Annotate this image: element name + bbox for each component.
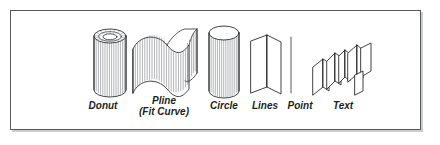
label-donut-text: Donut bbox=[89, 100, 118, 111]
label-circle-text: Circle bbox=[210, 100, 238, 111]
figure-canvas: .ol { fill: none; stroke: #2b2d2f; strok… bbox=[11, 11, 422, 131]
shape-circle bbox=[209, 26, 239, 98]
label-lines: Lines bbox=[246, 100, 284, 111]
shape-pline bbox=[133, 29, 197, 97]
label-point-text: Point bbox=[288, 100, 313, 111]
shape-text bbox=[313, 43, 371, 95]
label-pline-text: Pline bbox=[152, 95, 176, 106]
label-text: Text bbox=[320, 100, 366, 111]
shape-lines bbox=[251, 35, 281, 94]
label-point: Point bbox=[282, 100, 318, 111]
label-text-text: Text bbox=[333, 100, 353, 111]
figure-root: .ol { fill: none; stroke: #2b2d2f; strok… bbox=[0, 0, 440, 145]
label-circle: Circle bbox=[198, 100, 250, 111]
figure-frame: .ol { fill: none; stroke: #2b2d2f; strok… bbox=[10, 10, 421, 130]
label-lines-text: Lines bbox=[252, 100, 278, 111]
label-pline-subtext: (Fit Curve) bbox=[128, 106, 200, 117]
label-donut: Donut bbox=[78, 100, 128, 111]
shape-donut bbox=[94, 29, 126, 97]
cad-drawing: .ol { fill: none; stroke: #2b2d2f; strok… bbox=[11, 11, 422, 131]
label-pline: Pline (Fit Curve) bbox=[128, 95, 200, 117]
